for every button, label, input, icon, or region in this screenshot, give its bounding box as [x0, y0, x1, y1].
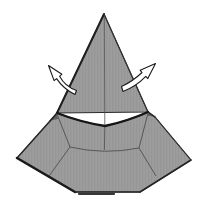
- origami-diagram-page: [0, 0, 204, 205]
- hat-cone: [57, 14, 148, 113]
- origami-witch-hat-diagram: [0, 0, 204, 205]
- diagram-shape-layer: [17, 14, 191, 194]
- hat-brim: [17, 112, 191, 192]
- cone-center-crease: [104, 16, 105, 125]
